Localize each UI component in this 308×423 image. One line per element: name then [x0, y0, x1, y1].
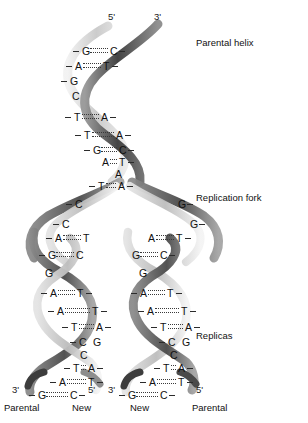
- parental-hbond-4: [82, 114, 99, 119]
- parental-base-left-9: T: [98, 181, 105, 192]
- replica-right-tick-left-9: [140, 382, 146, 383]
- replica-right-hbond-9: [157, 379, 176, 384]
- replica-right-base-left-8: T: [163, 363, 170, 374]
- replica-right-tick-left-8: [154, 368, 160, 369]
- parental-hbond-5: [92, 132, 114, 137]
- replica-right-base-right-0: T: [176, 233, 183, 244]
- replica-left-hbond-10: [46, 392, 68, 397]
- replica-left-base-left-4: A: [57, 306, 64, 317]
- replica-right-hbond-0: [156, 235, 174, 240]
- replica-left-base-right-3: T: [77, 288, 84, 299]
- fork-left-base-0: C: [75, 199, 83, 210]
- parental-tick-left-2: [61, 81, 67, 82]
- replica-left-base-left-5: T: [71, 322, 78, 333]
- replica-right-base-left-3: A: [140, 288, 147, 299]
- replica-left-base-left-9: A: [59, 377, 66, 388]
- replica-right-tick-right-10: [169, 395, 175, 396]
- parental-base-left-3: C: [72, 91, 80, 102]
- replica-left-tick-left-8: [64, 368, 70, 369]
- replica-right-tick-right-9: [187, 382, 193, 383]
- parental-base-right-9: A: [118, 181, 125, 192]
- parental-tick-right-4: [110, 117, 116, 118]
- replica-right-base-right-6: G: [182, 337, 190, 348]
- fork-right-tick-0: [187, 204, 193, 205]
- parental-tick-left-0: [73, 51, 79, 52]
- replica-left-base-right-9: T: [88, 377, 95, 388]
- replica-right-tick-right-5: [194, 327, 200, 328]
- replica-right-tick-left-4: [138, 311, 144, 312]
- parental-base-right-7: T: [119, 157, 126, 168]
- replica-left-base-right-10: C: [70, 390, 78, 401]
- replica-left-tick-left-4: [48, 311, 54, 312]
- parental-hbond-6: [101, 147, 117, 152]
- replica-left-base-right-0: T: [83, 233, 90, 244]
- replica-right-base-right-4: T: [181, 306, 188, 317]
- parental-hbond-1: [83, 63, 101, 68]
- parental-tick-right-9: [127, 186, 133, 187]
- replica-right-base-left-4: A: [147, 306, 154, 317]
- parental-base-left-1: A: [75, 61, 82, 72]
- replica-right-base-left-2: G: [139, 268, 147, 279]
- replica-left-tick-left-5: [62, 327, 68, 328]
- parental-base-right-5: A: [116, 130, 123, 141]
- replica-left-tick-right-8: [97, 368, 103, 369]
- parental-hbond-0: [90, 48, 108, 53]
- parental-base-right-6: C: [119, 145, 127, 156]
- replica-right-base-left-6: C: [168, 337, 176, 348]
- parental-tick-right-1: [112, 66, 118, 67]
- replica-right-tick-right-0: [185, 238, 191, 239]
- replica-left-tick-left-0: [46, 238, 52, 239]
- parental-tick-left-6: [84, 150, 90, 151]
- replica-left-base-right-4: T: [92, 306, 99, 317]
- replica-right-hbond-4: [155, 308, 179, 313]
- replica-left-base-left-8: T: [73, 363, 80, 374]
- replica-right-tick-left-10: [119, 395, 125, 396]
- replica-left-tick-left-6: [70, 342, 76, 343]
- parental-tick-right-6: [128, 150, 134, 151]
- replica-left-hbond-0: [63, 235, 81, 240]
- replica-left-base-left-0: A: [55, 233, 62, 244]
- replica-right-tick-left-3: [131, 293, 137, 294]
- replica-left-base-right-6: G: [93, 337, 101, 348]
- replica-left-base-left-2: G: [45, 268, 53, 279]
- parental-tick-right-5: [125, 135, 131, 136]
- replica-right-base-right-8: A: [178, 363, 185, 374]
- replica-left-tick-left-3: [41, 293, 47, 294]
- replica-left-tick-left-9: [50, 382, 56, 383]
- replica-left-hbond-3: [58, 290, 75, 295]
- replica-left-hbond-8: [81, 365, 86, 370]
- parental-base-left-2: G: [70, 76, 78, 87]
- fork-right-base-1: G: [190, 219, 198, 230]
- replica-right-base-left-0: A: [148, 233, 155, 244]
- replica-right-base-right-3: T: [167, 288, 174, 299]
- fork-left-tick-0: [66, 204, 72, 205]
- replica-left-base-right-8: A: [88, 363, 95, 374]
- replica-right-base-left-7: C: [170, 350, 178, 361]
- replica-left-tick-right-5: [105, 327, 111, 328]
- replica-right-tick-right-1: [169, 255, 175, 256]
- parental-tick-left-1: [66, 66, 72, 67]
- fork-right-base-0: G: [178, 199, 186, 210]
- replica-left-base-right-5: A: [96, 322, 103, 333]
- fork-left-base-1: C: [62, 219, 70, 230]
- replica-right-base-left-9: A: [149, 377, 156, 388]
- parental-base-right-1: T: [103, 61, 110, 72]
- replica-right-base-right-1: C: [160, 250, 168, 261]
- replica-right-hbond-3: [148, 290, 165, 295]
- replica-left-base-left-6: C: [79, 337, 87, 348]
- replica-left-base-right-1: C: [76, 250, 84, 261]
- base-pair-layer: GCATGCTATAGCATATAATGCGATATTACGCTAATGCATG…: [0, 0, 308, 423]
- dna-replication-figure: 5' 3' 3' 5' 3' 5' Parental helix Replica…: [0, 0, 308, 423]
- replica-right-tick-left-5: [151, 327, 157, 328]
- parental-base-left-7: A: [102, 157, 109, 168]
- parental-hbond-7: [110, 159, 117, 164]
- replica-right-tick-right-8: [187, 368, 193, 369]
- parental-tick-left-4: [65, 117, 71, 118]
- parental-tick-left-5: [75, 135, 81, 136]
- parental-base-left-5: T: [84, 130, 91, 141]
- parental-tick-right-0: [119, 51, 125, 52]
- replica-right-base-right-5: A: [185, 322, 192, 333]
- replica-right-hbond-5: [168, 324, 183, 329]
- replica-left-hbond-5: [79, 324, 94, 329]
- replica-right-hbond-1: [140, 252, 158, 257]
